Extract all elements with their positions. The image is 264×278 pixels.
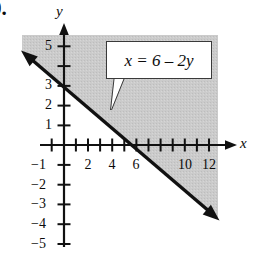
x-tick-label-12: 12 (198, 158, 220, 172)
y-tick-label-5: 5 (26, 39, 52, 53)
x-axis-label: x (240, 136, 247, 151)
y-tick-label-neg3: −3 (20, 197, 46, 211)
y-tick-label-neg5: −5 (20, 237, 46, 251)
y-tick-label-3: 3 (26, 78, 52, 92)
y-tick-label-2: 2 (26, 98, 52, 112)
y-axis-label: y (56, 4, 63, 19)
y-tick-label-1: 1 (26, 118, 52, 132)
y-tick-label-neg1: −1 (20, 158, 46, 172)
y-tick-label-neg2: −2 (20, 178, 46, 192)
equation-text: x = 6 – 2y (124, 52, 193, 69)
x-tick-label-2: 2 (77, 158, 99, 172)
y-tick-label-neg4: −4 (20, 217, 46, 231)
x-tick-label-4: 4 (101, 158, 123, 172)
x-tick-label-6: 6 (125, 158, 147, 172)
x-tick-label-10: 10 (174, 158, 196, 172)
problem-number: 0. (0, 0, 7, 19)
equation-callout-box: x = 6 – 2y (106, 41, 212, 79)
graph-figure: 0. y x 5 3 2 1 −1 −2 −3 −4 −5 2 4 6 10 1… (0, 0, 264, 278)
